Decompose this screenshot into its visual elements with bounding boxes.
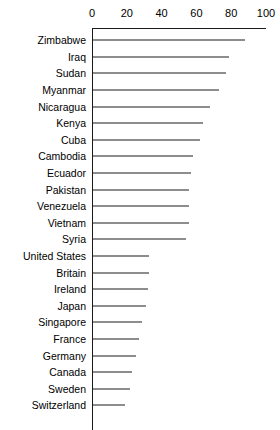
value-bar [92, 322, 142, 323]
chart-row: Singapore [0, 314, 280, 331]
category-label: France [53, 333, 86, 344]
chart-row: France [0, 331, 280, 348]
value-bar [92, 256, 149, 257]
chart-row: Switzerland [0, 397, 280, 414]
category-label: Sweden [48, 383, 86, 394]
x-axis-tick-label: 0 [89, 8, 95, 19]
category-label: Myanmar [42, 85, 86, 96]
chart-row: Syria [0, 231, 280, 248]
chart-row: Venezuela [0, 198, 280, 215]
category-label: Britain [56, 267, 86, 278]
value-bar [92, 305, 146, 306]
value-bar [92, 73, 226, 74]
chart-row: Cuba [0, 132, 280, 149]
x-axis: 020406080100 [0, 0, 280, 32]
chart-row: Nicaragua [0, 98, 280, 115]
chart-row: Sweden [0, 380, 280, 397]
value-bar [92, 106, 210, 107]
chart-row: Ecuador [0, 165, 280, 182]
value-bar [92, 355, 136, 356]
value-bar [92, 90, 219, 91]
category-label: Nicaragua [38, 101, 86, 112]
category-label: Vietnam [48, 217, 86, 228]
value-bar [92, 206, 189, 207]
chart-row: Canada [0, 364, 280, 381]
chart-row: Germany [0, 347, 280, 364]
x-axis-tick-label: 40 [155, 8, 167, 19]
x-axis-tick-label: 60 [190, 8, 202, 19]
category-label: Switzerland [32, 400, 86, 411]
x-axis-tick-label: 20 [121, 8, 133, 19]
chart-row: United States [0, 248, 280, 265]
x-axis-tick-label: 80 [225, 8, 237, 19]
value-bar [92, 40, 245, 41]
category-label: Canada [49, 367, 86, 378]
value-bar [92, 156, 193, 157]
category-label: Japan [57, 300, 86, 311]
value-bar [92, 405, 125, 406]
chart-row: Ireland [0, 281, 280, 298]
chart-row: Zimbabwe [0, 32, 280, 49]
value-bar [92, 189, 189, 190]
category-label: Sudan [56, 68, 86, 79]
chart-row: Cambodia [0, 148, 280, 165]
category-label: Singapore [38, 317, 86, 328]
chart-rows: ZimbabweIraqSudanMyanmarNicaraguaKenyaCu… [0, 32, 280, 414]
value-bar [92, 123, 203, 124]
value-bar [92, 239, 186, 240]
value-bar [92, 372, 132, 373]
category-label: Germany [43, 350, 86, 361]
value-bar [92, 139, 200, 140]
category-label: Syria [62, 234, 86, 245]
chart-row: Vietnam [0, 215, 280, 232]
x-axis-tick-label: 100 [257, 8, 275, 19]
value-bar [92, 338, 139, 339]
category-label: Venezuela [37, 201, 86, 212]
value-bar [92, 173, 191, 174]
chart-row: Pakistan [0, 181, 280, 198]
chart-row: Myanmar [0, 82, 280, 99]
value-bar [92, 272, 149, 273]
chart-row: Iraq [0, 49, 280, 66]
value-bar [92, 388, 130, 389]
category-label: Kenya [56, 118, 86, 129]
category-label: Cuba [61, 134, 86, 145]
category-label: Ireland [54, 284, 86, 295]
chart-row: Sudan [0, 65, 280, 82]
chart-row: Kenya [0, 115, 280, 132]
x-axis-line [92, 28, 266, 29]
value-bar [92, 289, 148, 290]
chart-row: Japan [0, 298, 280, 315]
value-bar [92, 56, 229, 57]
category-label: Ecuador [47, 168, 86, 179]
category-label: Cambodia [38, 151, 86, 162]
value-bar [92, 222, 189, 223]
category-label: Pakistan [46, 184, 86, 195]
category-label: Iraq [68, 51, 86, 62]
category-label: Zimbabwe [38, 35, 86, 46]
category-label: United States [23, 251, 86, 262]
chart-row: Britain [0, 264, 280, 281]
